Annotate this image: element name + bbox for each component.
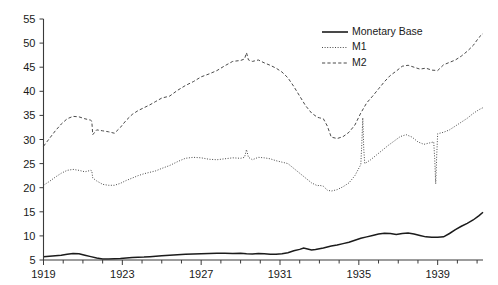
series-line-m1 — [44, 108, 484, 191]
y-tick-label: 50 — [23, 37, 35, 49]
y-tick-label: 10 — [23, 230, 35, 242]
y-tick-label: 40 — [23, 85, 35, 97]
line-chart: 510152025303540455055 191919231927193119… — [0, 0, 498, 285]
y-tick-label: 45 — [23, 61, 35, 73]
y-tick-label: 15 — [23, 206, 35, 218]
chart-container: 510152025303540455055 191919231927193119… — [0, 0, 498, 285]
x-tick-label: 1931 — [268, 268, 292, 280]
series-group — [44, 33, 484, 259]
y-tick-label: 25 — [23, 158, 35, 170]
y-tick-label: 5 — [29, 254, 35, 266]
legend-label-monetary-base: Monetary Base — [352, 25, 423, 37]
series-line-m2 — [44, 33, 484, 146]
x-tick-label: 1935 — [347, 268, 371, 280]
legend-label-m2: M2 — [352, 56, 367, 68]
x-tick-label: 1919 — [31, 268, 55, 280]
legend-label-m1: M1 — [352, 40, 367, 52]
y-tick-label: 30 — [23, 134, 35, 146]
plot-area — [44, 33, 484, 259]
legend: Monetary BaseM1M2 — [322, 25, 423, 68]
y-tick-label: 35 — [23, 109, 35, 121]
x-axis-ticks: 191919231927193119351939 — [31, 260, 477, 280]
y-tick-label: 55 — [23, 13, 35, 25]
axes: 510152025303540455055 191919231927193119… — [23, 13, 483, 280]
y-tick-label: 20 — [23, 182, 35, 194]
y-axis-ticks: 510152025303540455055 — [23, 13, 43, 266]
series-line-monetary-base — [44, 212, 484, 259]
x-tick-label: 1939 — [425, 268, 449, 280]
x-tick-label: 1927 — [189, 268, 213, 280]
x-tick-label: 1923 — [110, 268, 134, 280]
